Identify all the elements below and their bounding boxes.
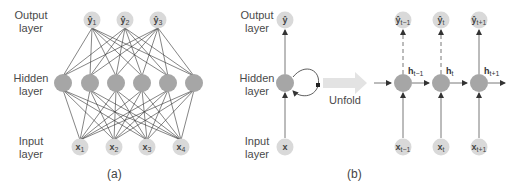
unrolled-output-t: ŷt bbox=[426, 15, 456, 28]
input-layer-label-a: Input layer bbox=[10, 135, 52, 161]
hidden-state-t-minus-1: ht−1 bbox=[408, 66, 423, 79]
input-hidden-connections bbox=[63, 90, 194, 140]
unrolled-input-t-plus-1: xt+1 bbox=[464, 142, 494, 155]
unrolled-input-t-minus-1: xt−1 bbox=[388, 142, 418, 155]
input-node-1: x1 bbox=[65, 142, 95, 155]
recurrent-loop bbox=[293, 69, 319, 96]
hidden-layer-label-a: Hidden layer bbox=[10, 72, 52, 98]
label-line: layer bbox=[10, 148, 52, 161]
folded-output-node: ŷ bbox=[270, 15, 300, 25]
hidden-layer-nodes bbox=[54, 74, 203, 92]
label-line: Output bbox=[10, 9, 52, 22]
label-line: Hidden bbox=[236, 72, 278, 85]
unfold-label: Unfold bbox=[323, 94, 367, 107]
hidden-layer-label-b: Hidden layer bbox=[236, 72, 278, 98]
output-layer-label-a: Output layer bbox=[10, 9, 52, 35]
hidden-output-connections bbox=[63, 28, 194, 76]
unfold-arrow-icon bbox=[323, 72, 367, 94]
label-line: Hidden bbox=[10, 72, 52, 85]
label-line: layer bbox=[10, 85, 52, 98]
output-node-1: ŷ1 bbox=[77, 15, 107, 28]
unrolled-input-t: xt bbox=[426, 142, 456, 155]
label-line: Input bbox=[10, 135, 52, 148]
hidden-state-t-plus-1: ht+1 bbox=[484, 66, 499, 79]
caption-b: (b) bbox=[347, 167, 362, 181]
caption-a: (a) bbox=[107, 167, 122, 181]
output-node-3: ŷ3 bbox=[143, 15, 173, 28]
folded-rnn bbox=[276, 12, 320, 156]
unrolled-output-t-plus-1: ŷt+1 bbox=[464, 15, 494, 28]
unrolled-output-t-minus-1: ŷt−1 bbox=[388, 15, 418, 28]
input-node-4: x4 bbox=[166, 142, 196, 155]
output-node-2: ŷ2 bbox=[110, 15, 140, 28]
input-node-2: x2 bbox=[99, 142, 129, 155]
label-line: layer bbox=[10, 22, 52, 35]
input-node-3: x3 bbox=[132, 142, 162, 155]
hidden-state-t: ht bbox=[446, 66, 453, 79]
label-line: layer bbox=[236, 85, 278, 98]
folded-input-node: x bbox=[270, 142, 300, 152]
